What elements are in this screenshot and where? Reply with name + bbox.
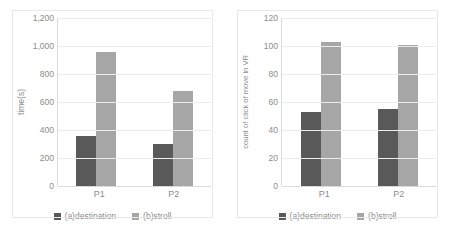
legend-swatch-icon (279, 213, 286, 220)
chart-body-right: count of click of move in VR 02040608010… (225, 0, 450, 186)
gridline (282, 74, 436, 75)
y-axis-title-right: count of click of move in VR (241, 55, 250, 149)
gridline (282, 46, 436, 47)
legend-swatch-icon (54, 213, 61, 220)
legend-label: (a)destination (290, 211, 342, 221)
y-tick-label: 1,000 (33, 41, 54, 51)
y-tick-label: 800 (40, 69, 54, 79)
bar (378, 109, 398, 186)
y-tick-label: 40 (269, 125, 278, 135)
gridline (282, 130, 436, 131)
legend-left: (a)destination(b)stroll (0, 206, 225, 232)
gridline (58, 74, 211, 75)
gridline (58, 158, 211, 159)
plot-area-left (57, 18, 211, 186)
x-axis-labels-inner-right: P1P2 (287, 189, 436, 206)
plot-area-right (281, 18, 436, 186)
bar (153, 144, 173, 186)
chart-panel-clicks: count of click of move in VR 02040608010… (225, 0, 450, 232)
y-tick-label: 600 (40, 97, 54, 107)
two-panel-bar-chart-figure: time(s) 02004006008001,0001,200 P1P2 (a)… (0, 0, 450, 232)
chart-body-left: time(s) 02004006008001,0001,200 (0, 0, 225, 186)
legend-item: (b)stroll (357, 211, 396, 221)
bar (76, 136, 96, 186)
x-axis-labels-right: P1P2 (225, 186, 450, 206)
x-axis-labels-inner-left: P1P2 (62, 189, 211, 206)
y-tick-label: 120 (264, 13, 278, 23)
legend-label: (b)stroll (368, 211, 396, 221)
legend-right: (a)destination(b)stroll (225, 206, 450, 232)
bar (173, 91, 193, 186)
x-axis-labels-left: P1P2 (0, 186, 225, 206)
chart-panel-time: time(s) 02004006008001,0001,200 P1P2 (a)… (0, 0, 225, 232)
gridline (58, 18, 211, 19)
legend-label: (b)stroll (143, 211, 171, 221)
gridline (58, 46, 211, 47)
legend-label: (a)destination (65, 211, 117, 221)
legend-item: (a)destination (54, 211, 117, 221)
gridline (58, 130, 211, 131)
bar (321, 42, 341, 186)
y-tick-label: 20 (269, 153, 278, 163)
gridline (282, 102, 436, 103)
y-tick-label: 80 (269, 69, 278, 79)
x-axis-label: P1 (304, 189, 344, 206)
y-axis-title-left: time(s) (16, 89, 26, 115)
y-tick-label: 100 (264, 41, 278, 51)
y-tick-label: 1,200 (33, 13, 54, 23)
legend-swatch-icon (357, 213, 364, 220)
y-axis-ticks-left: 02004006008001,0001,200 (27, 18, 57, 186)
legend-item: (b)stroll (132, 211, 171, 221)
legend-swatch-icon (132, 213, 139, 220)
x-axis-label: P2 (379, 189, 419, 206)
bar (301, 112, 321, 186)
y-tick-label: 200 (40, 153, 54, 163)
y-axis-ticks-right: 020406080100120 (251, 18, 281, 186)
gridline (282, 18, 436, 19)
bar (398, 45, 418, 186)
y-tick-label: 60 (269, 97, 278, 107)
x-axis-label: P2 (154, 189, 194, 206)
y-tick-label: 400 (40, 125, 54, 135)
legend-item: (a)destination (279, 211, 342, 221)
bar (96, 52, 116, 186)
gridline (58, 102, 211, 103)
x-axis-label: P1 (79, 189, 119, 206)
gridline (282, 158, 436, 159)
